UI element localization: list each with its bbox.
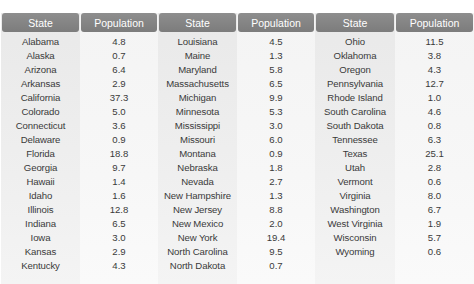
state-column-2: StateLouisianaMaineMarylandMassachusetts… bbox=[158, 13, 237, 284]
state-name-cell: Nebraska bbox=[158, 161, 237, 175]
state-name-cell: Vermont bbox=[315, 175, 395, 189]
state-name-cell: Utah bbox=[315, 161, 395, 175]
population-value-cell: 9.7 bbox=[80, 161, 158, 175]
state-name-cell: West Virginia bbox=[315, 217, 395, 231]
population-value-cell: 3.6 bbox=[80, 119, 158, 133]
state-name-cell: Pennsylvania bbox=[315, 77, 395, 91]
population-value-cell: 0.8 bbox=[395, 119, 474, 133]
state-name-cell: Missouri bbox=[158, 133, 237, 147]
state-name-cell: Wyoming bbox=[315, 245, 395, 259]
population-value-cell: 3.0 bbox=[80, 231, 158, 245]
population-value-cell: 6.5 bbox=[237, 77, 315, 91]
state-name-cell: Delaware bbox=[1, 133, 80, 147]
population-value-cell: 5.0 bbox=[80, 105, 158, 119]
state-name-cell: Illinois bbox=[1, 203, 80, 217]
population-value-cell: 1.8 bbox=[237, 161, 315, 175]
state-name-cell: Oregon bbox=[315, 63, 395, 77]
state-name-cell: Kentucky bbox=[1, 259, 80, 273]
state-population-table: StateAlabamaAlaskaArizonaArkansasCalifor… bbox=[1, 13, 474, 284]
state-column-3: StateOhioOklahomaOregonPennsylvaniaRhode… bbox=[315, 13, 395, 284]
state-name-cell: Minnesota bbox=[158, 105, 237, 119]
state-column-1: StateAlabamaAlaskaArizonaArkansasCalifor… bbox=[1, 13, 80, 284]
state-name-cell: Florida bbox=[1, 147, 80, 161]
state-name-cell: New Jersey bbox=[158, 203, 237, 217]
population-value-cell: 37.3 bbox=[80, 91, 158, 105]
population-column-header: Population bbox=[81, 13, 157, 32]
population-value-cell: 1.6 bbox=[80, 189, 158, 203]
population-value-cell: 5.8 bbox=[237, 63, 315, 77]
state-name-cell: Iowa bbox=[1, 231, 80, 245]
population-value-cell: 1.3 bbox=[237, 49, 315, 63]
population-value-cell: 9.9 bbox=[237, 91, 315, 105]
population-value-cell: 5.7 bbox=[395, 231, 474, 245]
population-value-cell: 4.3 bbox=[395, 63, 474, 77]
state-name-cell: North Carolina bbox=[158, 245, 237, 259]
population-value-cell: 6.3 bbox=[395, 133, 474, 147]
population-column-header: Population bbox=[396, 13, 473, 32]
state-name-cell: New Mexico bbox=[158, 217, 237, 231]
population-value-cell: 2.0 bbox=[237, 217, 315, 231]
state-name-cell: Massachusetts bbox=[158, 77, 237, 91]
population-column-1: Population4.80.76.42.937.35.03.60.918.89… bbox=[80, 13, 158, 284]
population-value-cell: 5.3 bbox=[237, 105, 315, 119]
population-column-3: Population11.53.84.312.71.04.60.86.325.1… bbox=[395, 13, 474, 284]
state-name-cell: Hawaii bbox=[1, 175, 80, 189]
population-value-cell: 6.4 bbox=[80, 63, 158, 77]
population-value-cell: 2.7 bbox=[237, 175, 315, 189]
state-name-cell: Tennessee bbox=[315, 133, 395, 147]
population-value-cell: 4.8 bbox=[80, 35, 158, 49]
state-name-cell: Georgia bbox=[1, 161, 80, 175]
population-value-cell: 1.3 bbox=[237, 189, 315, 203]
state-column-header: State bbox=[2, 13, 79, 32]
population-value-cell: 12.7 bbox=[395, 77, 474, 91]
population-column-header: Population bbox=[238, 13, 314, 32]
state-name-cell: Texas bbox=[315, 147, 395, 161]
population-value-cell: 0.9 bbox=[80, 133, 158, 147]
population-value-cell: 0.7 bbox=[237, 259, 315, 273]
state-name-cell: Nevada bbox=[158, 175, 237, 189]
state-name-cell: Alaska bbox=[1, 49, 80, 63]
population-value-cell: 3.0 bbox=[237, 119, 315, 133]
population-value-cell: 2.9 bbox=[80, 77, 158, 91]
state-name-cell: Arkansas bbox=[1, 77, 80, 91]
state-name-cell: New Hampshire bbox=[158, 189, 237, 203]
state-name-cell: South Carolina bbox=[315, 105, 395, 119]
population-value-cell: 1.4 bbox=[80, 175, 158, 189]
population-value-cell: 2.9 bbox=[80, 245, 158, 259]
population-value-cell: 4.5 bbox=[237, 35, 315, 49]
population-value-cell: 6.0 bbox=[237, 133, 315, 147]
population-value-cell: 0.6 bbox=[395, 175, 474, 189]
population-value-cell: 18.8 bbox=[80, 147, 158, 161]
population-value-cell: 25.1 bbox=[395, 147, 474, 161]
population-value-cell: 11.5 bbox=[395, 35, 474, 49]
state-column-header: State bbox=[316, 13, 394, 32]
state-name-cell: Mississippi bbox=[158, 119, 237, 133]
population-value-cell: 8.0 bbox=[395, 189, 474, 203]
state-name-cell: North Dakota bbox=[158, 259, 237, 273]
population-value-cell: 6.5 bbox=[80, 217, 158, 231]
population-value-cell: 0.6 bbox=[395, 245, 474, 259]
population-value-cell: 9.5 bbox=[237, 245, 315, 259]
population-value-cell: 0.9 bbox=[237, 147, 315, 161]
state-name-cell: Idaho bbox=[1, 189, 80, 203]
population-value-cell: 12.8 bbox=[80, 203, 158, 217]
population-value-cell: 0.7 bbox=[80, 49, 158, 63]
state-name-cell: Montana bbox=[158, 147, 237, 161]
state-name-cell: South Dakota bbox=[315, 119, 395, 133]
population-value-cell: 1.9 bbox=[395, 217, 474, 231]
population-value-cell: 3.8 bbox=[395, 49, 474, 63]
state-name-cell: Maine bbox=[158, 49, 237, 63]
population-value-cell: 2.8 bbox=[395, 161, 474, 175]
state-name-cell: Indiana bbox=[1, 217, 80, 231]
population-column-2: Population4.51.35.86.59.95.33.06.00.91.8… bbox=[237, 13, 315, 284]
state-name-cell: New York bbox=[158, 231, 237, 245]
population-value-cell: 1.0 bbox=[395, 91, 474, 105]
state-name-cell: Connecticut bbox=[1, 119, 80, 133]
state-name-cell: Ohio bbox=[315, 35, 395, 49]
state-name-cell: Alabama bbox=[1, 35, 80, 49]
state-name-cell: Oklahoma bbox=[315, 49, 395, 63]
state-name-cell: Kansas bbox=[1, 245, 80, 259]
state-name-cell: Louisiana bbox=[158, 35, 237, 49]
population-value-cell: 4.6 bbox=[395, 105, 474, 119]
state-column-header: State bbox=[159, 13, 236, 32]
